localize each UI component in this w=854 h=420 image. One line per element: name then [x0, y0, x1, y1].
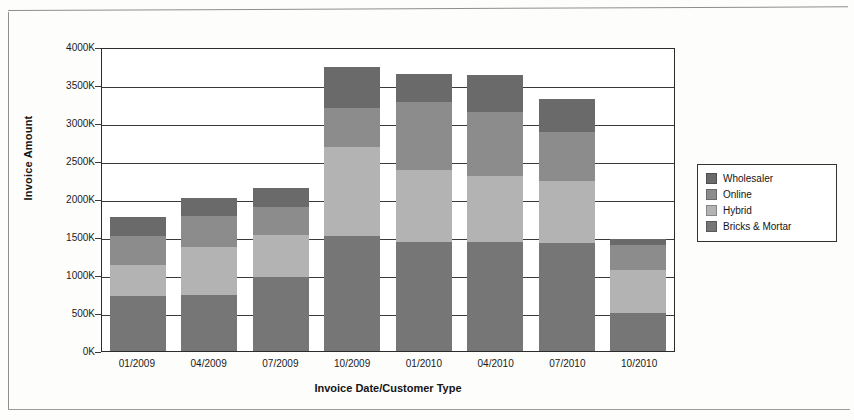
x-axis-tick-label: 01/2009 — [97, 358, 177, 369]
legend-swatch-icon — [706, 173, 717, 184]
legend-label: Hybrid — [723, 205, 752, 216]
bar-segment[interactable] — [110, 296, 166, 351]
legend-item[interactable]: Hybrid — [706, 204, 828, 217]
bar-segment[interactable] — [396, 242, 452, 351]
bar-segment[interactable] — [324, 147, 380, 236]
bar-segment[interactable] — [181, 198, 237, 216]
x-axis-tick-label: 10/2010 — [599, 358, 679, 369]
legend-item[interactable]: Online — [706, 188, 828, 201]
legend-label: Bricks & Mortar — [723, 221, 791, 232]
x-axis-tick-label: 04/2010 — [456, 358, 536, 369]
bar-segment[interactable] — [253, 277, 309, 351]
bar-segment[interactable] — [324, 236, 380, 351]
x-axis-tick-label: 07/2009 — [240, 358, 320, 369]
y-axis-tick-label: 1000K — [25, 270, 95, 281]
stacked-bar[interactable] — [467, 75, 523, 351]
x-axis-tick-label: 10/2009 — [312, 358, 392, 369]
bar-group — [102, 49, 674, 351]
bar-slot — [317, 49, 389, 351]
bar-segment[interactable] — [396, 170, 452, 242]
y-axis-tick-label: 500K — [25, 308, 95, 319]
bar-segment[interactable] — [324, 67, 380, 108]
bar-segment[interactable] — [610, 270, 666, 313]
stacked-bar[interactable] — [181, 198, 237, 352]
bar-segment[interactable] — [539, 181, 595, 243]
bar-segment[interactable] — [253, 207, 309, 235]
chart-legend: WholesalerOnlineHybridBricks & Mortar — [697, 164, 837, 242]
y-axis-tick-label: 1500K — [25, 232, 95, 243]
legend-swatch-icon — [706, 189, 717, 200]
y-axis-tick-label: 3000K — [25, 118, 95, 129]
y-axis-tick-label: 4000K — [25, 42, 95, 53]
stacked-bar[interactable] — [610, 239, 666, 351]
y-axis-tick-label: 0K — [25, 346, 95, 357]
bar-segment[interactable] — [396, 74, 452, 102]
bar-segment[interactable] — [324, 108, 380, 148]
stacked-bar[interactable] — [110, 217, 166, 351]
x-axis-tick-label: 01/2010 — [384, 358, 464, 369]
bar-segment[interactable] — [539, 99, 595, 132]
legend-item[interactable]: Bricks & Mortar — [706, 220, 828, 233]
legend-swatch-icon — [706, 221, 717, 232]
stacked-bar[interactable] — [324, 67, 380, 351]
y-axis-tick-label: 2500K — [25, 156, 95, 167]
bar-segment[interactable] — [110, 265, 166, 296]
legend-label: Online — [723, 189, 752, 200]
bar-slot — [460, 49, 532, 351]
bar-segment[interactable] — [467, 242, 523, 351]
bar-slot — [388, 49, 460, 351]
bar-slot — [174, 49, 246, 351]
legend-swatch-icon — [706, 205, 717, 216]
bar-segment[interactable] — [610, 245, 666, 269]
bar-slot — [531, 49, 603, 351]
bar-segment[interactable] — [181, 295, 237, 351]
bar-segment[interactable] — [253, 235, 309, 277]
plot-area — [101, 48, 675, 352]
bar-segment[interactable] — [253, 188, 309, 206]
bar-segment[interactable] — [110, 236, 166, 266]
bar-segment[interactable] — [539, 243, 595, 351]
y-axis-tick-label: 3500K — [25, 80, 95, 91]
bar-segment[interactable] — [467, 75, 523, 112]
bar-segment[interactable] — [467, 176, 523, 242]
bar-segment[interactable] — [181, 216, 237, 247]
bar-slot — [245, 49, 317, 351]
bar-segment[interactable] — [396, 102, 452, 170]
x-axis-tick-label: 07/2010 — [527, 358, 607, 369]
stacked-bar[interactable] — [539, 99, 595, 351]
bar-segment[interactable] — [467, 112, 523, 176]
legend-item[interactable]: Wholesaler — [706, 172, 828, 185]
legend-label: Wholesaler — [723, 173, 773, 184]
bar-segment[interactable] — [539, 132, 595, 181]
bar-segment[interactable] — [110, 217, 166, 235]
y-axis-tick-mark — [95, 352, 101, 353]
stacked-bar[interactable] — [253, 188, 309, 351]
stacked-bar-chart: Invoice Amount 0K500K1000K1500K2000K2500… — [0, 0, 854, 420]
stacked-bar[interactable] — [396, 74, 452, 351]
x-axis-title: Invoice Date/Customer Type — [101, 382, 675, 394]
bar-segment[interactable] — [181, 247, 237, 295]
y-axis-tick-label: 2000K — [25, 194, 95, 205]
bar-slot — [102, 49, 174, 351]
x-axis-tick-label: 04/2009 — [169, 358, 249, 369]
bar-segment[interactable] — [610, 313, 666, 351]
scanned-page: Invoice Amount 0K500K1000K1500K2000K2500… — [0, 0, 854, 420]
bar-slot — [603, 49, 675, 351]
